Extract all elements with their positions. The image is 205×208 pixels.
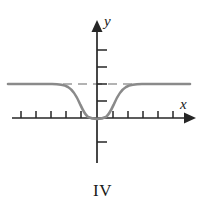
figure-caption: IV: [0, 181, 205, 201]
plot-area: [0, 0, 205, 180]
coordinate-plane-svg: [0, 0, 205, 180]
y-axis-label: y: [104, 14, 111, 29]
x-axis-label: x: [180, 97, 187, 112]
x-axis-arrowhead: [184, 113, 196, 124]
y-axis-ticks: [97, 50, 107, 142]
graph-figure: y x IV: [0, 0, 205, 208]
y-axis-arrowhead: [92, 20, 103, 32]
